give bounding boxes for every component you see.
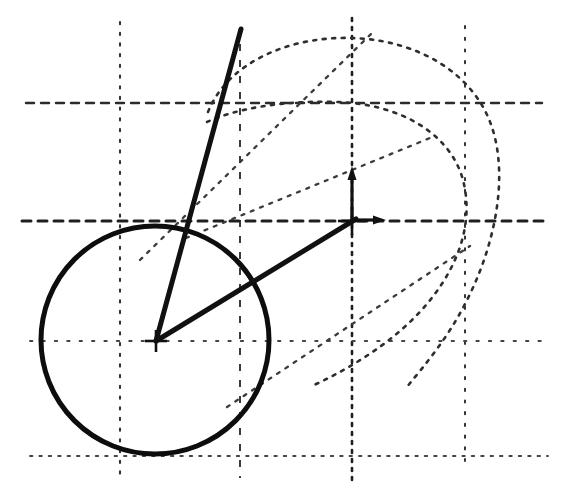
- figure-background: [0, 0, 565, 494]
- figure-canvas: [0, 0, 565, 494]
- geometry-diagram: [0, 0, 565, 494]
